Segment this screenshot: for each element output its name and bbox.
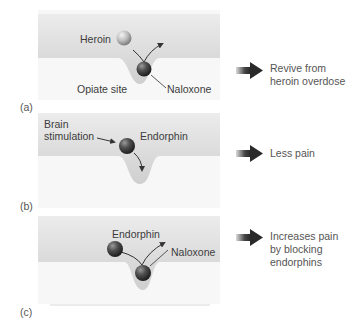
result-a-line1: Revive from [270, 62, 345, 75]
naloxone-label-a: Naloxone [167, 83, 211, 95]
stimulation-label: stimulation [44, 130, 94, 142]
heroin-label: Heroin [80, 33, 111, 45]
heroin-molecule [117, 31, 132, 46]
result-a-line2: heroin overdose [270, 75, 345, 88]
result-b-text: Less pain [270, 147, 315, 160]
result-arrow-b-icon [236, 145, 263, 162]
result-c-line1: Increases pain [270, 230, 338, 243]
endorphin-label-b: Endorphin [140, 130, 188, 142]
panel-a-tag: (a) [20, 101, 33, 113]
result-c-line2: by blocking [270, 243, 338, 256]
opiate-site-label: Opiate site [77, 83, 127, 95]
result-arrow-c-icon [236, 229, 263, 246]
endorphin-molecule-c [107, 241, 123, 257]
naloxone-label-c: Naloxone [171, 246, 215, 258]
naloxone-molecule-a [137, 62, 152, 77]
diagram-canvas [0, 0, 361, 329]
result-a-text: Revive from heroin overdose [270, 62, 345, 88]
result-arrow-a-icon [236, 62, 263, 79]
endorphin-label-c: Endorphin [112, 228, 160, 240]
brain-label: Brain [44, 118, 69, 130]
naloxone-molecule-c [135, 265, 151, 281]
panel-c-tag: (c) [20, 306, 32, 318]
result-b-line1: Less pain [270, 147, 315, 160]
panel-b-tag: (b) [20, 200, 33, 212]
endorphin-molecule-b [119, 138, 135, 154]
result-c-line3: endorphins [270, 256, 338, 269]
result-c-text: Increases pain by blocking endorphins [270, 230, 338, 269]
